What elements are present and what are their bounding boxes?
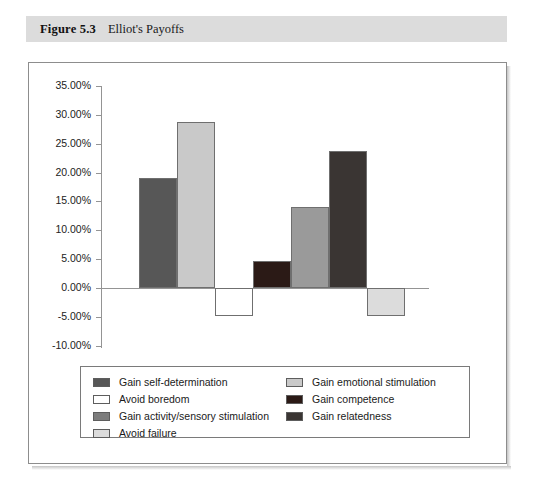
legend-label: Gain relatedness xyxy=(312,410,391,422)
y-axis-tick-label: 5.00% xyxy=(61,252,91,264)
legend-entry: Avoid boredom xyxy=(93,392,189,406)
legend-label: Avoid failure xyxy=(119,427,177,439)
bar xyxy=(291,207,329,288)
legend-swatch xyxy=(286,412,303,421)
y-axis-tick-label: 30.00% xyxy=(55,108,91,120)
panel-drop-shadow-right xyxy=(507,66,511,466)
legend-label: Gain emotional stimulation xyxy=(312,376,436,388)
y-axis-tick-label: -5.00% xyxy=(58,310,91,322)
chart-legend: Gain self-determinationAvoid boredomGain… xyxy=(80,366,470,438)
bar xyxy=(215,288,253,316)
bar-series xyxy=(101,86,431,348)
legend-label: Avoid boredom xyxy=(119,393,189,405)
bar xyxy=(329,151,367,288)
legend-label: Gain competence xyxy=(312,393,394,405)
legend-swatch xyxy=(93,412,110,421)
legend-entry: Gain emotional stimulation xyxy=(286,375,436,389)
legend-entry: Gain competence xyxy=(286,392,394,406)
figure-number: Figure 5.3 xyxy=(40,22,96,37)
figure-title: Elliot's Payoffs xyxy=(108,22,184,37)
y-axis-tick-label: 0.00% xyxy=(61,281,91,293)
legend-swatch xyxy=(93,378,110,387)
y-axis-tick-label: 35.00% xyxy=(55,79,91,91)
bar xyxy=(367,288,405,316)
y-axis-tick-label: 10.00% xyxy=(55,223,91,235)
legend-swatch xyxy=(286,378,303,387)
bar xyxy=(139,178,177,288)
y-axis-tick-label: -10.00% xyxy=(52,339,91,351)
legend-label: Gain self-determination xyxy=(119,376,228,388)
legend-entry: Gain relatedness xyxy=(286,409,391,423)
figure-caption-bar: Figure 5.3 Elliot's Payoffs xyxy=(26,16,507,42)
legend-swatch xyxy=(93,429,110,438)
legend-swatch xyxy=(93,395,110,404)
bar xyxy=(177,122,215,288)
y-axis-tick-label: 15.00% xyxy=(55,194,91,206)
legend-entry: Avoid failure xyxy=(93,426,177,440)
y-axis-tick-label: 25.00% xyxy=(55,137,91,149)
legend-entry: Gain self-determination xyxy=(93,375,228,389)
legend-swatch xyxy=(286,395,303,404)
panel-drop-shadow xyxy=(32,466,511,470)
legend-label: Gain activity/sensory stimulation xyxy=(119,410,269,422)
legend-entry: Gain activity/sensory stimulation xyxy=(93,409,269,423)
bar xyxy=(253,261,291,288)
y-axis-tick-label: 20.00% xyxy=(55,166,91,178)
